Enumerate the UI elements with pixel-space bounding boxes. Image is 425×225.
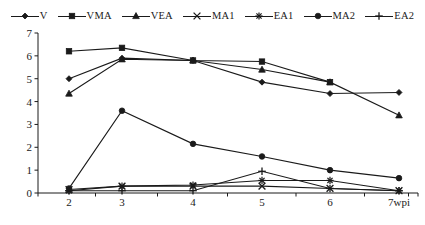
series-vea xyxy=(66,56,403,118)
x-tick-label: 5 xyxy=(259,196,265,208)
y-tick-label: 6 xyxy=(14,50,32,61)
x-tick-label: 4 xyxy=(190,196,196,208)
axis-lines xyxy=(38,33,418,193)
x-tick-label: 2 xyxy=(66,196,72,208)
series-vma xyxy=(66,45,332,85)
y-tick-label: 4 xyxy=(14,96,32,107)
y-tick-label: 5 xyxy=(14,73,32,84)
y-tick-label: 2 xyxy=(14,142,32,153)
series-ma1 xyxy=(66,183,403,194)
x-tick-label: 7wpi xyxy=(388,196,410,208)
y-axis-ticks xyxy=(35,33,39,193)
x-tick-label: 3 xyxy=(119,196,125,208)
y-tick-label: 3 xyxy=(14,119,32,130)
plot-area xyxy=(0,0,425,225)
x-tick-label: 6 xyxy=(327,196,333,208)
y-tick-label: 0 xyxy=(14,188,32,199)
y-tick-label: 1 xyxy=(14,165,32,176)
series-ea2 xyxy=(65,167,403,194)
y-tick-label: 7 xyxy=(14,28,32,39)
line-chart: VVMAVEAMA1EA1MA2EA2 01234567 234567wpi xyxy=(0,0,425,225)
x-axis-ticks xyxy=(38,193,418,197)
